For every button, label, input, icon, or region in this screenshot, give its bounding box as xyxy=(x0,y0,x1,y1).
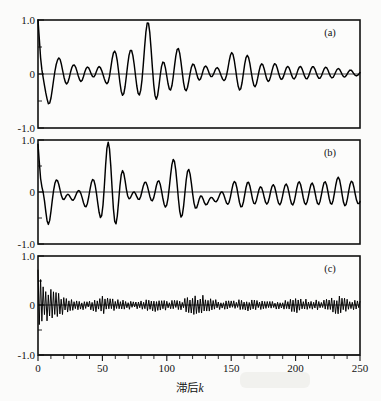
xtick-label-0: 0 xyxy=(35,362,41,374)
xtick-label-250: 250 xyxy=(352,362,369,374)
panel-c-ytick-mid: 0 xyxy=(30,299,36,311)
panel-b-ytick-bottom: -1.0 xyxy=(18,238,36,250)
xtick-label-100: 100 xyxy=(159,362,176,374)
panel-b-label: (b) xyxy=(324,147,337,159)
panel-c-ytick-top: 1.0 xyxy=(21,250,35,262)
x-axis-title-variable: k xyxy=(198,382,204,394)
panel-b-ytick-mid: 0 xyxy=(30,186,36,198)
panel-a-label: (a) xyxy=(324,27,336,39)
x-axis-title: 滞后k xyxy=(176,382,204,394)
panel-a-ytick-bottom: -1.0 xyxy=(18,122,36,134)
xtick-label-150: 150 xyxy=(223,362,240,374)
figure-container: 1.0 0 -1.0 (a) 1.0 0 -1.0 (b) xyxy=(0,0,381,401)
panel-b-ytick-top: 1.0 xyxy=(21,134,35,146)
panel-c-label: (c) xyxy=(324,263,336,275)
acf-figure: 1.0 0 -1.0 (a) 1.0 0 -1.0 (b) xyxy=(0,0,381,401)
xtick-label-200: 200 xyxy=(287,362,304,374)
panel-a: 1.0 0 -1.0 (a) xyxy=(18,14,360,134)
panel-a-ytick-top: 1.0 xyxy=(21,14,35,26)
panel-b: 1.0 0 -1.0 (b) xyxy=(18,134,360,250)
panel-c: 1.0 0 -1.0 (c) xyxy=(18,250,360,361)
panel-c-ytick-bottom: -1.0 xyxy=(18,349,36,361)
xtick-label-50: 50 xyxy=(97,362,109,374)
x-axis-title-cjk: 滞后 xyxy=(176,382,198,394)
panel-a-ytick-mid: 0 xyxy=(30,68,36,80)
